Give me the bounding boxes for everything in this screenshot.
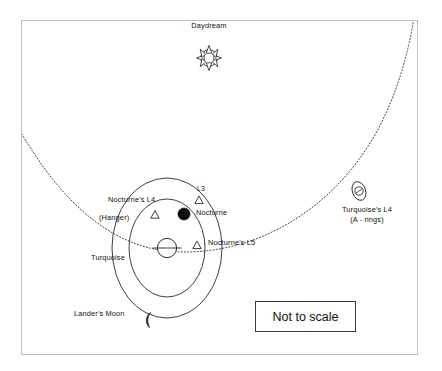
orbital-diagram: Daydream Nocturne's L4 (Hanger) L3 Noctu…: [0, 0, 442, 371]
not-to-scale-label: Not to scale: [272, 310, 338, 324]
label-nocturne: Nocturne: [196, 209, 227, 218]
label-nocturne-l5: Nocturne's L5: [208, 239, 255, 248]
label-nocturne-l4: Nocturne's L4: [108, 196, 155, 205]
label-turquoise-l4-rings: (A - rings): [327, 216, 407, 225]
not-to-scale-box: Not to scale: [255, 301, 356, 332]
sun-icon: [197, 46, 222, 71]
filled-moon-icon: [178, 208, 190, 220]
label-nocturne-l3: L3: [197, 185, 205, 193]
label-turquoise-l4: Turquoise's L4: [327, 206, 407, 215]
label-nocturne-l4-hanger: (Hanger): [99, 214, 129, 223]
label-landers-moon: Lander's Moon: [74, 310, 125, 319]
label-daydream: Daydream: [178, 22, 240, 31]
label-turquoise: Turquoise: [91, 254, 125, 263]
diagram-canvas: [0, 0, 442, 371]
